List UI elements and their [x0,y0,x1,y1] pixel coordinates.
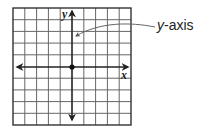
y-axis-callout-label: y-axis [157,17,194,33]
y-axis-letter: y [62,8,67,20]
origin-dot [69,64,74,69]
callout-suffix: -axis [164,17,194,33]
x-axis-letter: x [121,69,127,81]
coordinate-plane-diagram: y x y-axis [0,0,202,130]
callout-arrow [76,24,155,36]
callout-variable: y [157,17,164,33]
